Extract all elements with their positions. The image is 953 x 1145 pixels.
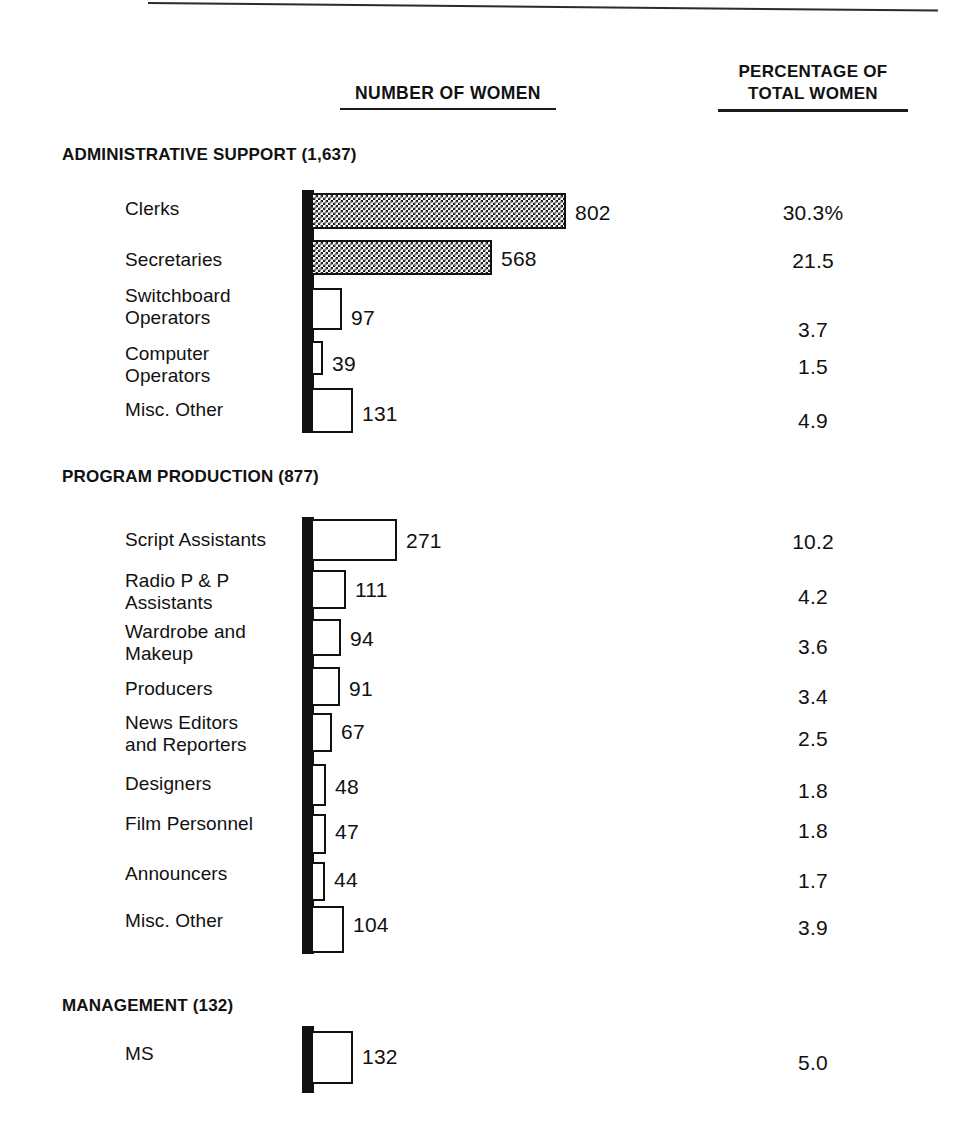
row-label-line: Wardrobe and bbox=[125, 621, 297, 643]
bar-value-label: 48 bbox=[335, 775, 359, 799]
percentage-value: 1.8 bbox=[718, 819, 908, 843]
row-label-line: News Editors bbox=[125, 712, 297, 734]
percentage-value: 3.9 bbox=[718, 916, 908, 940]
row-label-line: MS bbox=[125, 1042, 297, 1065]
row-label-line: Radio P & P bbox=[125, 570, 297, 592]
row-label-line: Producers bbox=[125, 677, 297, 700]
row-label: Script Assistants bbox=[125, 528, 297, 551]
percentage-value: 3.6 bbox=[718, 635, 908, 659]
percentage-value: 4.2 bbox=[718, 585, 908, 609]
bar-value-label: 802 bbox=[575, 201, 611, 225]
bar bbox=[311, 388, 353, 433]
row-label: Producers bbox=[125, 677, 297, 700]
bar-value-label: 271 bbox=[406, 529, 442, 553]
row-label-line: Misc. Other bbox=[125, 398, 297, 421]
bar bbox=[311, 519, 397, 561]
row-label-line: Misc. Other bbox=[125, 909, 297, 932]
row-label: Designers bbox=[125, 772, 297, 795]
row-label: Misc. Other bbox=[125, 909, 297, 932]
row-label: Wardrobe andMakeup bbox=[125, 621, 297, 665]
row-label-line: Designers bbox=[125, 772, 297, 795]
row-label-line: Switchboard bbox=[125, 285, 297, 307]
bar-value-label: 111 bbox=[355, 578, 388, 602]
bar-value-label: 568 bbox=[501, 247, 537, 271]
percentage-value: 3.7 bbox=[718, 318, 908, 342]
row-label-line: Makeup bbox=[125, 643, 297, 665]
percentage-value: 1.8 bbox=[718, 779, 908, 803]
bar-value-label: 47 bbox=[335, 820, 359, 844]
bar bbox=[311, 193, 566, 229]
percentage-value: 2.5 bbox=[718, 727, 908, 751]
row-label-line: Operators bbox=[125, 307, 297, 329]
row-label: News Editorsand Reporters bbox=[125, 712, 297, 756]
section-heading: ADMINISTRATIVE SUPPORT (1,637) bbox=[62, 145, 357, 165]
row-label-line: Computer bbox=[125, 343, 297, 365]
row-label: Film Personnel bbox=[125, 812, 297, 835]
row-label-line: Operators bbox=[125, 365, 297, 387]
row-label: Misc. Other bbox=[125, 398, 297, 421]
column-header-number-label: NUMBER OF WOMEN bbox=[340, 83, 556, 104]
bar bbox=[311, 341, 323, 375]
column-header-percentage-underline bbox=[718, 109, 908, 112]
percentage-value: 5.0 bbox=[718, 1051, 908, 1075]
bar bbox=[311, 906, 344, 953]
percentage-value: 4.9 bbox=[718, 409, 908, 433]
row-label: ComputerOperators bbox=[125, 343, 297, 387]
row-label: SwitchboardOperators bbox=[125, 285, 297, 329]
row-label-line: Secretaries bbox=[125, 248, 297, 271]
bar-value-label: 104 bbox=[353, 913, 389, 937]
bar bbox=[311, 764, 326, 806]
bar bbox=[311, 862, 325, 901]
row-label: Clerks bbox=[125, 197, 297, 220]
column-header-number-underline bbox=[340, 108, 556, 110]
column-header-percentage-line1: PERCENTAGE OF bbox=[718, 61, 908, 83]
row-label-line: Assistants bbox=[125, 592, 297, 614]
row-label: MS bbox=[125, 1042, 297, 1065]
bar bbox=[311, 1031, 353, 1084]
page-top-rule bbox=[148, 2, 938, 12]
bar bbox=[311, 240, 492, 275]
bar bbox=[311, 288, 342, 330]
bar-value-label: 44 bbox=[334, 868, 358, 892]
column-header-percentage-line2: TOTAL WOMEN bbox=[718, 83, 908, 105]
bar-value-label: 131 bbox=[362, 402, 398, 426]
bar-value-label: 94 bbox=[350, 627, 374, 651]
row-label: Secretaries bbox=[125, 248, 297, 271]
row-label: Announcers bbox=[125, 862, 297, 885]
bar-value-label: 97 bbox=[351, 306, 375, 330]
bar-value-label: 39 bbox=[332, 352, 356, 376]
percentage-value: 1.7 bbox=[718, 869, 908, 893]
bar-value-label: 132 bbox=[362, 1045, 398, 1069]
row-label-line: Script Assistants bbox=[125, 528, 297, 551]
percentage-value: 30.3% bbox=[718, 201, 908, 225]
section-heading: PROGRAM PRODUCTION (877) bbox=[62, 467, 319, 487]
percentage-value: 1.5 bbox=[718, 355, 908, 379]
row-label-line: Film Personnel bbox=[125, 812, 297, 835]
percentage-value: 10.2 bbox=[718, 530, 908, 554]
bar bbox=[311, 713, 332, 752]
row-label-line: Announcers bbox=[125, 862, 297, 885]
section-heading: MANAGEMENT (132) bbox=[62, 996, 233, 1016]
percentage-value: 21.5 bbox=[718, 249, 908, 273]
bar bbox=[311, 570, 346, 609]
bar bbox=[311, 619, 341, 656]
bar-value-label: 67 bbox=[341, 720, 365, 744]
bar-value-label: 91 bbox=[349, 677, 373, 701]
row-label-line: and Reporters bbox=[125, 734, 297, 756]
column-header-number-of-women: NUMBER OF WOMEN bbox=[340, 83, 556, 110]
column-header-percentage-of-total-women: PERCENTAGE OF TOTAL WOMEN bbox=[718, 61, 908, 112]
bar bbox=[311, 814, 326, 854]
row-label-line: Clerks bbox=[125, 197, 297, 220]
percentage-value: 3.4 bbox=[718, 685, 908, 709]
row-label: Radio P & PAssistants bbox=[125, 570, 297, 614]
bar bbox=[311, 667, 340, 706]
